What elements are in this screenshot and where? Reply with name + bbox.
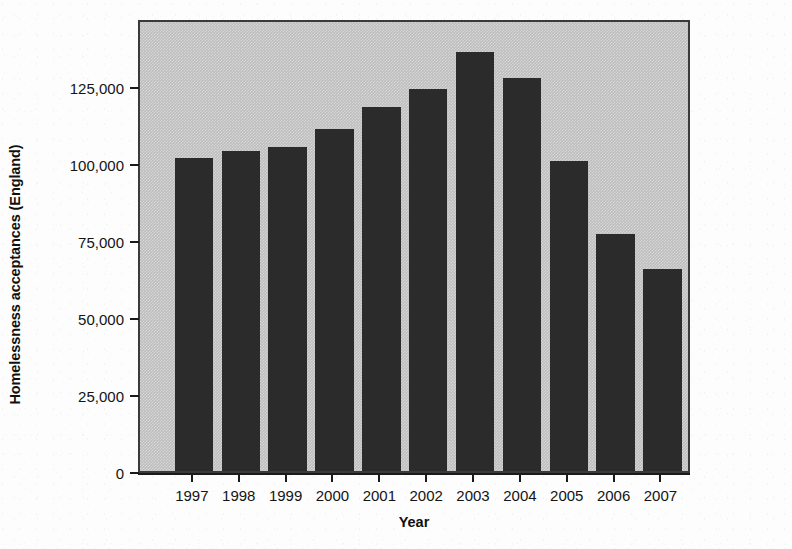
x-axis-tick-mark	[566, 473, 568, 482]
bar	[550, 161, 588, 471]
bar	[456, 52, 494, 471]
x-axis-line	[138, 473, 690, 475]
y-axis-tick-labels: 025,00050,00075,000100,000125,000	[38, 0, 124, 549]
x-axis-tick-mark	[613, 473, 615, 482]
y-axis-tick-mark	[130, 164, 139, 166]
y-axis-tick-mark	[130, 395, 139, 397]
x-axis-tick-mark	[331, 473, 333, 482]
x-axis-tick-mark	[191, 473, 193, 482]
y-axis-tick-label: 75,000	[38, 233, 124, 250]
bar	[222, 151, 260, 471]
x-axis-tick-mark	[425, 473, 427, 482]
x-axis-title: Year	[138, 514, 690, 530]
y-axis-tick-label: 25,000	[38, 387, 124, 404]
plot-area	[138, 20, 690, 473]
y-axis-tick-label: 0	[38, 465, 124, 482]
y-axis-title: Homelessness acceptances (England)	[0, 0, 30, 549]
chart-figure: Homelessness acceptances (England) 025,0…	[0, 0, 792, 549]
x-axis-tick-mark	[659, 473, 661, 482]
y-axis-tick-mark	[130, 318, 139, 320]
x-axis-tick-label: 2007	[630, 487, 690, 504]
bar	[268, 147, 306, 471]
bar	[175, 158, 213, 471]
bar	[596, 234, 634, 471]
x-axis-tick-mark	[519, 473, 521, 482]
bar-series	[140, 22, 688, 471]
x-axis-tick-mark	[238, 473, 240, 482]
y-axis-tick-label: 50,000	[38, 310, 124, 327]
y-axis-tick-mark	[130, 87, 139, 89]
x-axis-tick-mark	[472, 473, 474, 482]
y-axis-tick-mark	[130, 241, 139, 243]
bar	[362, 107, 400, 471]
x-axis-tick-mark	[378, 473, 380, 482]
bar	[643, 269, 681, 471]
y-axis-tick-label: 100,000	[38, 156, 124, 173]
x-axis-tick-mark	[285, 473, 287, 482]
y-axis-tick-mark	[130, 472, 139, 474]
bar	[315, 129, 353, 471]
bar	[409, 89, 447, 471]
y-axis-tick-label: 125,000	[38, 79, 124, 96]
bar	[503, 78, 541, 471]
